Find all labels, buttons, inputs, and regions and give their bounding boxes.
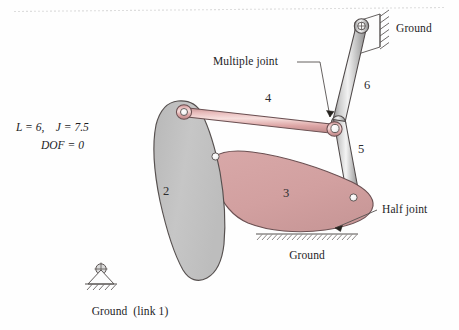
- equation-line-2: DOF = 0: [41, 139, 84, 152]
- link-number-4: 4: [265, 91, 271, 105]
- scan-artifact-line: [14, 8, 445, 12]
- leader-multiple-joint: [297, 62, 334, 117]
- joint-link3-link5: [350, 194, 357, 201]
- linkage-diagram: [0, 0, 459, 330]
- figure-canvas: L = 6, J = 7.5 DOF = 0 Multiple joint Ha…: [0, 0, 459, 330]
- annotation-ground-bottom-center: Ground: [289, 249, 325, 262]
- ground-support-bottom-left: [85, 263, 117, 291]
- joint-multiple-link4-link5-link6: [331, 124, 339, 132]
- annotation-ground-link-1: Ground (link 1): [92, 305, 169, 318]
- ground-line-bottom-center: [256, 234, 358, 240]
- hatch-lines-top: [380, 10, 389, 49]
- joint-link2-link4: [181, 109, 188, 116]
- link-number-5: 5: [358, 142, 364, 156]
- link-number-2: 2: [163, 184, 169, 198]
- annotation-multiple-joint: Multiple joint: [213, 55, 278, 68]
- link-number-6: 6: [364, 78, 370, 92]
- annotation-ground-top-right: Ground: [396, 22, 432, 35]
- joint-link2-link3: [212, 153, 219, 160]
- link-6-bar: [331, 19, 368, 130]
- annotation-half-joint: Half joint: [382, 203, 427, 216]
- joint-link6-ground: [358, 22, 366, 30]
- link-number-3: 3: [283, 186, 289, 200]
- hatch-lines-bottom-left: [87, 285, 116, 291]
- equation-line-1: L = 6, J = 7.5: [16, 121, 89, 134]
- arrowhead-icon: [327, 111, 335, 118]
- hatch-lines-ground: [257, 235, 357, 241]
